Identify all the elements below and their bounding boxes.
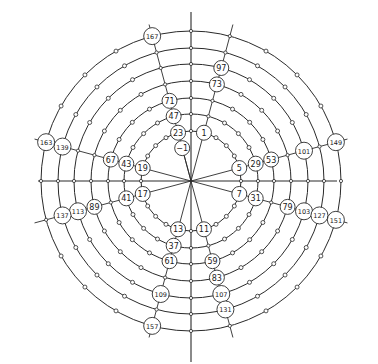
intersection-dot: [228, 35, 231, 38]
composite-dot: [154, 144, 158, 148]
prime-label: 151: [327, 211, 344, 228]
intersection-dot: [155, 308, 158, 311]
intersection-dot: [286, 154, 289, 157]
prime-label: 23: [171, 125, 186, 140]
label-text: 113: [72, 208, 84, 216]
composite-dot: [264, 49, 268, 53]
label-text: 89: [89, 203, 99, 212]
composite-dot: [83, 73, 87, 77]
prime-label: 163: [38, 134, 55, 151]
label-text: 103: [298, 208, 310, 216]
intersection-dot: [139, 179, 142, 182]
composite-dot: [295, 285, 299, 289]
composite-dot: [276, 229, 280, 233]
label-text: 53: [266, 156, 276, 165]
intersection-dot: [270, 201, 273, 204]
composite-dot: [319, 104, 323, 108]
composite-dot: [148, 107, 152, 111]
composite-dot: [106, 96, 110, 100]
intersection-dot: [189, 62, 192, 65]
label-text: 43: [121, 160, 131, 169]
composite-dot: [106, 262, 110, 266]
composite-dot: [319, 254, 323, 258]
intersection-dot: [189, 129, 192, 132]
label-text: 41: [121, 194, 131, 203]
prime-label: 7: [232, 186, 247, 201]
composite-dot: [295, 73, 299, 77]
composite-dot: [74, 246, 78, 250]
label-text: 31: [251, 194, 261, 203]
intersection-dot: [322, 179, 325, 182]
prime-label: 61: [162, 254, 177, 269]
label-text: 59: [207, 257, 217, 266]
prime-label: 127: [311, 207, 328, 224]
intersection-dot: [189, 329, 192, 332]
prime-label: 79: [280, 199, 295, 214]
composite-dot: [247, 146, 251, 150]
prime-label: 167: [144, 28, 161, 45]
prime-label: 67: [103, 152, 118, 167]
intersection-dot: [339, 179, 342, 182]
intersection-dot: [189, 29, 192, 32]
label-text: −1: [176, 144, 188, 153]
composite-dot: [142, 132, 146, 136]
composite-dot: [123, 64, 127, 68]
composite-dot: [117, 138, 121, 142]
prime-label: 53: [264, 152, 279, 167]
prime-label: 59: [205, 254, 220, 269]
prime-label: 149: [327, 134, 344, 151]
label-text: 7: [237, 190, 242, 199]
composite-dot: [236, 226, 240, 230]
prime-label: 107: [213, 286, 230, 303]
intersection-dot: [189, 246, 192, 249]
composite-dot: [232, 204, 236, 208]
intersection-dot: [211, 99, 214, 102]
composite-dot: [102, 229, 106, 233]
prime-label: 101: [296, 142, 313, 159]
intersection-dot: [106, 179, 109, 182]
intersection-dot: [189, 279, 192, 282]
composite-dot: [130, 120, 134, 124]
label-text: 37: [169, 242, 179, 251]
intersection-dot: [189, 96, 192, 99]
composite-dot: [142, 226, 146, 230]
prime-label: 131: [217, 301, 234, 318]
intersection-dot: [189, 262, 192, 265]
prime-label: 109: [152, 286, 169, 303]
composite-dot: [139, 266, 143, 270]
intersection-dot: [122, 179, 125, 182]
label-text: 83: [212, 274, 222, 283]
composite-dot: [154, 214, 158, 218]
prime-label: 31: [248, 191, 263, 206]
composite-dot: [231, 107, 235, 111]
composite-dot: [114, 49, 118, 53]
prime-label: 139: [54, 138, 71, 155]
composite-dot: [156, 121, 160, 125]
composite-dot: [256, 294, 260, 298]
composite-dot: [224, 214, 228, 218]
composite-dot: [164, 136, 168, 140]
label-text: 127: [313, 212, 325, 220]
prime-label: 47: [166, 109, 181, 124]
label-text: 149: [330, 139, 342, 147]
composite-dot: [130, 238, 134, 242]
composite-dot: [214, 222, 218, 226]
composite-dot: [146, 154, 150, 158]
prime-label: 97: [214, 60, 229, 75]
prime-label: 73: [209, 77, 224, 92]
intersection-dot: [159, 66, 162, 69]
composite-dot: [131, 280, 135, 284]
intersection-dot: [164, 83, 167, 86]
intersection-dot: [93, 154, 96, 157]
composite-dot: [123, 294, 127, 298]
label-text: 1: [201, 129, 206, 138]
composite-dot: [102, 129, 106, 133]
composite-dot: [283, 85, 287, 89]
composite-dot: [224, 144, 228, 148]
prime-label: 43: [119, 156, 134, 171]
prime-spiral-svg: −115711131719232931374143475359616771737…: [0, 0, 378, 364]
composite-dot: [131, 146, 135, 150]
composite-dot: [59, 104, 63, 108]
label-text: 101: [298, 148, 310, 156]
label-text: 131: [219, 306, 231, 314]
